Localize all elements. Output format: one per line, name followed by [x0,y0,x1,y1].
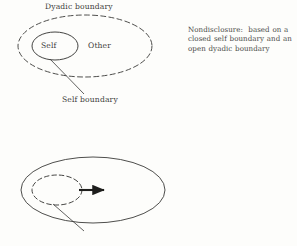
outer-dyadic-boundary-ellipse [18,15,152,77]
self-boundary-leader-line [53,204,84,231]
panel-self-disclosure: Dyadic boundary Self Other Self boundary… [0,123,297,246]
label-dyadic-boundary-top: Dyadic boundary [45,2,113,11]
caption-line: Nondisclosure: based on a [188,25,294,34]
nondisclosure-diagram [0,0,297,123]
label-self-top: Self [41,41,57,50]
figure-canvas: Dyadic boundary Self Other Self boundary… [0,0,297,246]
caption-line: open dyadic boundary [188,44,294,53]
self-disclosure-diagram [0,123,297,246]
panel-nondisclosure: Dyadic boundary Self Other Self boundary… [0,0,297,123]
inner-self-boundary-ellipse [32,175,82,205]
caption-line: closed self boundary and an [188,34,294,43]
caption-nondisclosure: Nondisclosure: based on a closed self bo… [188,25,294,53]
label-other-top: Other [88,41,111,50]
label-self-boundary-top: Self boundary [62,95,118,104]
